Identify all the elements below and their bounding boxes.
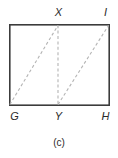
vertex-label-h: H — [99, 111, 112, 122]
vertex-label-g: G — [8, 111, 21, 122]
vertex-label-y: Y — [52, 111, 65, 122]
figure-canvas — [0, 0, 118, 158]
geometry-figure: X I G Y H (c) — [0, 0, 118, 158]
figure-caption: (c) — [0, 137, 118, 149]
vertex-label-i: I — [100, 7, 111, 18]
vertex-label-x: X — [52, 7, 65, 18]
rectangle-outline — [10, 25, 109, 105]
